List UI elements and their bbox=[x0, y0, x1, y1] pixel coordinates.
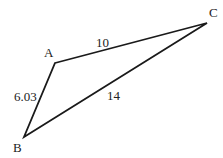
vertex-label-b: B bbox=[13, 140, 22, 155]
edge-label-ac: 10 bbox=[96, 35, 109, 50]
edge-label-bc: 14 bbox=[107, 88, 121, 103]
triangle-abc bbox=[24, 23, 207, 137]
vertex-label-c: C bbox=[209, 5, 218, 20]
edge-label-ab: 6.03 bbox=[14, 89, 37, 104]
vertex-label-a: A bbox=[44, 45, 54, 60]
triangle-diagram: A B C 10 14 6.03 bbox=[0, 0, 223, 158]
